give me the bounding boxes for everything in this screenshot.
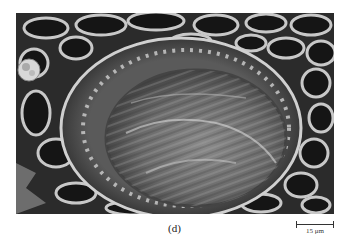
- panel-label: (d): [168, 222, 181, 234]
- scale-bar-label: 15 μm: [296, 227, 334, 235]
- micrograph-image: [16, 13, 334, 214]
- scale-bar-line: [296, 224, 334, 225]
